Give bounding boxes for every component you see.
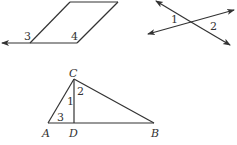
parallelogram-left-side (30, 2, 70, 43)
intersecting-lines-figure: 1 2 (148, 1, 234, 45)
parallelogram-right-side (77, 2, 118, 43)
vertex-label-a: A (41, 127, 50, 140)
angle-label-4: 4 (71, 30, 78, 43)
triangle-side-cb (74, 79, 154, 123)
parallelogram-figure: 3 4 (2, 2, 118, 43)
angle-label-3: 3 (24, 30, 31, 43)
angle-label-1: 1 (171, 13, 178, 26)
vertex-label-d: D (68, 127, 78, 140)
triangle-figure: C A D B 1 2 3 (41, 67, 159, 140)
vertex-label-c: C (69, 67, 78, 80)
triangle-angle-label-3: 3 (57, 111, 64, 124)
geometry-diagram: 3 4 1 2 C A D B 1 2 3 (0, 0, 237, 145)
vertex-label-b: B (150, 127, 159, 140)
triangle-angle-label-1: 1 (67, 95, 74, 108)
triangle-angle-label-2: 2 (77, 85, 84, 98)
line-b-left-ray (148, 22, 191, 34)
angle-label-2: 2 (210, 20, 217, 33)
